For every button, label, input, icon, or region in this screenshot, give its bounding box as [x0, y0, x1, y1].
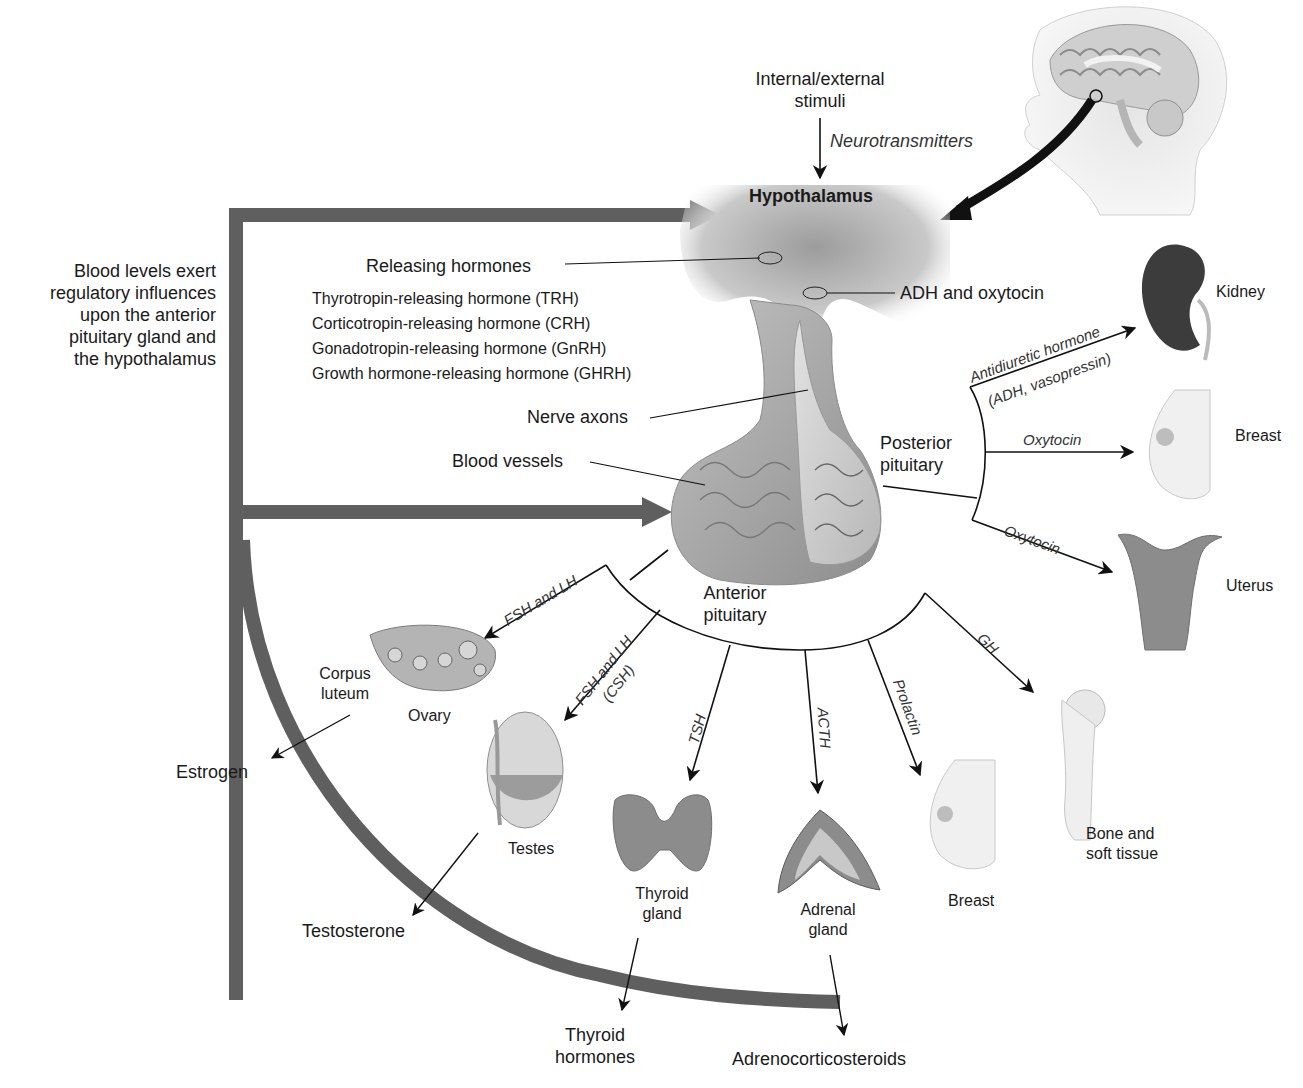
- breast-illustration-anterior: [930, 760, 995, 869]
- feedback-line-5: the hypothalamus: [10, 348, 216, 370]
- stimuli-line-1: Internal/external: [730, 68, 910, 90]
- thyroid-hormones-label: Thyroid hormones: [545, 1024, 645, 1068]
- blood-vessels-label: Blood vessels: [452, 450, 563, 472]
- feedback-line-3: upon the anterior: [10, 304, 216, 326]
- adrenal-illustration: [778, 810, 880, 893]
- diagram-canvas: [0, 0, 1303, 1088]
- head-brain-illustration: [1025, 7, 1227, 215]
- ovary-illustration: [370, 625, 496, 691]
- posterior-pituitary-label: Posterior pituitary: [880, 432, 952, 476]
- kidney-illustration: [1142, 245, 1209, 360]
- releasing-item-trh: Thyrotropin-releasing hormone (TRH): [312, 286, 631, 311]
- releasing-hormones-heading: Releasing hormones: [366, 255, 531, 277]
- estrogen-label: Estrogen: [176, 761, 248, 783]
- thyroid-hormones-line-2: hormones: [545, 1046, 645, 1068]
- posterior-line-1: Posterior: [880, 432, 952, 454]
- breast-illustration-posterior: [1149, 390, 1210, 499]
- feedback-line-1: Blood levels exert: [10, 260, 216, 282]
- feedback-line-2: regulatory influences: [10, 282, 216, 304]
- releasing-item-crh: Corticotropin-releasing hormone (CRH): [312, 311, 631, 336]
- thyroid-hormones-line-1: Thyroid: [545, 1024, 645, 1046]
- thyroid-illustration: [613, 795, 712, 871]
- uterus-label: Uterus: [1226, 576, 1273, 596]
- bone-line-2: soft tissue: [1086, 844, 1158, 864]
- adrenocorticosteroids-label: Adrenocorticosteroids: [732, 1048, 906, 1070]
- anterior-line-2: pituitary: [680, 604, 790, 626]
- bone-line-1: Bone and: [1086, 824, 1158, 844]
- testosterone-label: Testosterone: [302, 920, 405, 942]
- thyroid-gland-label: Thyroid gland: [622, 884, 702, 924]
- kidney-label: Kidney: [1216, 282, 1265, 302]
- bone-illustration: [1062, 690, 1105, 840]
- corpus-line-2: luteum: [305, 684, 385, 704]
- neurotransmitters-label: Neurotransmitters: [830, 130, 973, 152]
- stimuli-label: Internal/external stimuli: [730, 68, 910, 112]
- releasing-item-ghrh: Growth hormone-releasing hormone (GHRH): [312, 361, 631, 386]
- anterior-line-1: Anterior: [680, 582, 790, 604]
- releasing-hormones-list: Thyrotropin-releasing hormone (TRH) Cort…: [312, 286, 631, 386]
- feedback-description: Blood levels exert regulatory influences…: [10, 260, 216, 370]
- adrenal-gland-label: Adrenal gland: [788, 900, 868, 940]
- uterus-illustration: [1118, 534, 1222, 650]
- adrenal-line-2: gland: [788, 920, 868, 940]
- feedback-line-4: pituitary gland and: [10, 326, 216, 348]
- thyroid-line-1: Thyroid: [622, 884, 702, 904]
- stimuli-line-2: stimuli: [730, 90, 910, 112]
- ovary-label: Ovary: [408, 706, 451, 726]
- adh-oxytocin-label: ADH and oxytocin: [900, 282, 1044, 304]
- oxytocin-breast-label: Oxytocin: [1023, 430, 1081, 449]
- testes-illustration: [487, 712, 563, 828]
- bone-soft-tissue-label: Bone and soft tissue: [1086, 824, 1158, 864]
- acth-label: ACTH: [814, 707, 836, 749]
- adrenal-line-1: Adrenal: [788, 900, 868, 920]
- posterior-line-2: pituitary: [880, 454, 952, 476]
- breast-anterior-label: Breast: [948, 891, 994, 911]
- pituitary-gland-illustration: [671, 185, 950, 585]
- breast-posterior-label: Breast: [1235, 426, 1281, 446]
- corpus-line-1: Corpus: [305, 664, 385, 684]
- anterior-pituitary-label: Anterior pituitary: [680, 582, 790, 626]
- hypothalamus-label: Hypothalamus: [749, 185, 873, 207]
- corpus-luteum-label: Corpus luteum: [305, 664, 385, 704]
- testes-label: Testes: [508, 839, 554, 859]
- thyroid-line-2: gland: [622, 904, 702, 924]
- nerve-axons-label: Nerve axons: [527, 406, 628, 428]
- releasing-item-gnrh: Gonadotropin-releasing hormone (GnRH): [312, 336, 631, 361]
